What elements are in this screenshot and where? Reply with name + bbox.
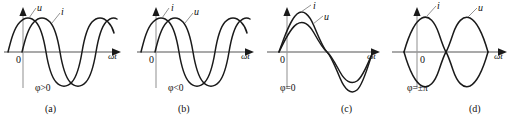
- waveform-figure: u i 0 ωt φ>0 (a) i u 0 ωt φ<0 (b): [0, 0, 518, 128]
- series-label-i: i: [313, 1, 316, 11]
- leader-u: [185, 13, 193, 23]
- phase-label: φ<0: [168, 84, 184, 94]
- panel-b: i u 0 ωt φ<0 (b): [133, 0, 263, 128]
- y-axis-arrow: [152, 7, 159, 16]
- leader-i: [52, 13, 60, 23]
- leader-u: [468, 8, 477, 17]
- series-label-i: i: [171, 3, 174, 13]
- series-label-i: i: [61, 7, 64, 17]
- panel-caption: (c): [341, 104, 352, 114]
- series-label-u: u: [37, 3, 42, 13]
- panel-d: i u 0 ωt φ=±π (d): [390, 0, 518, 128]
- origin-label: 0: [420, 55, 425, 65]
- origin-label: 0: [280, 55, 285, 65]
- series-label-i: i: [437, 1, 440, 11]
- phase-label: φ=±π: [407, 84, 428, 94]
- panel-caption: (a): [45, 104, 56, 114]
- x-axis-label: ωt: [367, 52, 376, 61]
- x-axis-label: ωt: [494, 52, 503, 61]
- y-axis-arrow: [283, 7, 290, 16]
- panel-c: i u 0 ωt φ=0 (c): [263, 0, 393, 128]
- origin-label: 0: [149, 55, 154, 65]
- x-axis-label: ωt: [241, 52, 250, 61]
- leader-i: [427, 6, 436, 16]
- phase-label: φ=0: [280, 84, 296, 94]
- leader-i: [301, 5, 311, 12]
- x-axis-label: ωt: [108, 52, 117, 61]
- panel-a: u i 0 ωt φ>0 (a): [0, 0, 130, 128]
- series-label-u: u: [478, 3, 483, 13]
- leader-i: [162, 8, 169, 18]
- origin-label: 0: [16, 55, 21, 65]
- leader-u: [313, 16, 323, 24]
- panel-d-plot: [390, 0, 518, 128]
- series-label-u: u: [194, 7, 199, 17]
- leader-u: [29, 8, 36, 18]
- panel-caption: (b): [178, 104, 190, 114]
- y-axis-arrow: [413, 7, 420, 16]
- y-axis-arrow: [19, 7, 26, 16]
- phase-label: φ>0: [35, 84, 51, 94]
- panel-caption: (d): [469, 104, 481, 114]
- series-label-u: u: [324, 12, 329, 22]
